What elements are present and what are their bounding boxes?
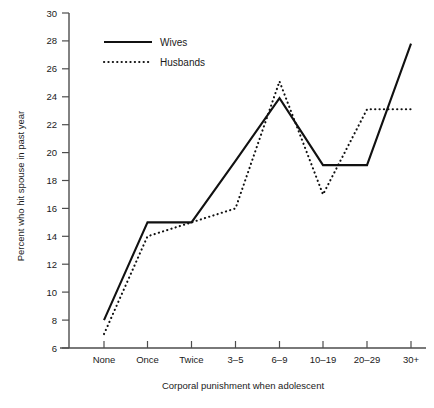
y-tick-label-22: 22 xyxy=(46,119,57,130)
y-tick-label-28: 28 xyxy=(46,35,57,46)
y-tick-label-8: 8 xyxy=(52,315,57,326)
x-axis-title: Corporal punishment when adolescent xyxy=(162,380,324,391)
y-tick-label-24: 24 xyxy=(46,91,57,102)
x-tick-label-none: None xyxy=(93,354,116,365)
y-tick-label-14: 14 xyxy=(46,231,57,242)
x-tick-label-6-9: 6–9 xyxy=(272,354,288,365)
y-tick-label-18: 18 xyxy=(46,175,57,186)
x-tick-label-twice: Twice xyxy=(179,354,203,365)
y-tick-label-12: 12 xyxy=(46,259,57,270)
legend-label-wives: Wives xyxy=(160,37,187,48)
x-tick-label-once: Once xyxy=(136,354,159,365)
y-axis-title: Percent who hit spouse in past year xyxy=(15,111,26,262)
line-chart-canvas: 30 28 26 24 22 20 18 16 14 12 10 8 6 xyxy=(0,0,434,408)
y-tick-label-16: 16 xyxy=(46,203,57,214)
legend-label-husbands: Husbands xyxy=(160,57,205,68)
x-tick-label-30plus: 30+ xyxy=(403,354,420,365)
chart-background xyxy=(0,0,434,408)
x-tick-label-10-19: 10–19 xyxy=(310,354,336,365)
chart-figure: 30 28 26 24 22 20 18 16 14 12 10 8 6 xyxy=(0,0,434,408)
x-tick-label-3-5: 3–5 xyxy=(228,354,244,365)
y-tick-label-26: 26 xyxy=(46,63,57,74)
y-tick-label-6: 6 xyxy=(52,343,57,354)
y-tick-label-20: 20 xyxy=(46,147,57,158)
y-tick-label-10: 10 xyxy=(46,287,57,298)
x-tick-label-20-29: 20–29 xyxy=(354,354,380,365)
y-tick-label-30: 30 xyxy=(46,8,57,19)
